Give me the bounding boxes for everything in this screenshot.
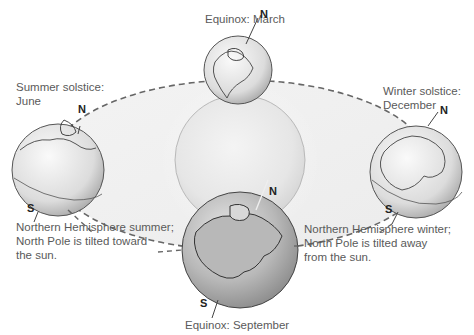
- globe-march: [204, 18, 272, 104]
- south-pole-label-december: S: [385, 203, 392, 215]
- note-winter-line3: from the sun.: [304, 250, 451, 264]
- north-pole-label-september: N: [269, 185, 277, 197]
- summer-solstice-month: June: [16, 94, 104, 108]
- label-equinox-september: Equinox: September: [185, 318, 289, 332]
- north-pole-label-june: N: [78, 103, 86, 115]
- label-equinox-march: Equinox: March: [205, 12, 285, 26]
- note-summer-line2: North Pole is tilted toward: [16, 234, 174, 248]
- note-winter-line2: North Pole is tilted away: [304, 236, 451, 250]
- north-pole-label-december: N: [440, 104, 448, 116]
- orbit-diagram: [0, 0, 474, 335]
- south-pole-label-june: S: [27, 202, 34, 214]
- note-northern-summer: Northern Hemisphere summer; North Pole i…: [16, 220, 174, 262]
- south-pole-label-september: S: [200, 297, 207, 309]
- winter-solstice-month: December: [383, 98, 461, 112]
- note-winter-line1: Northern Hemisphere winter;: [304, 222, 451, 236]
- note-northern-winter: Northern Hemisphere winter; North Pole i…: [304, 222, 451, 264]
- north-pole-label-march: N: [260, 8, 268, 20]
- summer-solstice-title: Summer solstice:: [16, 80, 104, 94]
- note-summer-line3: the sun.: [16, 248, 174, 262]
- winter-solstice-title: Winter solstice:: [383, 84, 461, 98]
- label-summer-solstice: Summer solstice: June: [16, 80, 104, 108]
- label-winter-solstice: Winter solstice: December: [383, 84, 461, 112]
- note-summer-line1: Northern Hemisphere summer;: [16, 220, 174, 234]
